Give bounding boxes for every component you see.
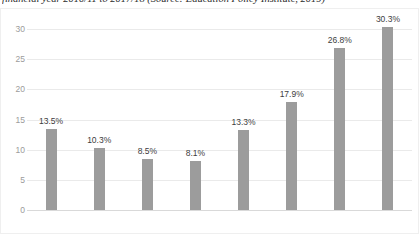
gridline xyxy=(27,89,412,90)
bar-value-label: 10.3% xyxy=(87,135,111,145)
bar[interactable] xyxy=(46,129,57,210)
y-axis-tick-label: 5 xyxy=(3,175,25,185)
y-axis-tick-label: 0 xyxy=(3,205,25,215)
bar-value-label: 13.5% xyxy=(39,116,63,126)
y-axis-tick-label: 10 xyxy=(3,145,25,155)
bar[interactable] xyxy=(334,48,345,210)
gridline xyxy=(27,210,412,211)
bar[interactable] xyxy=(286,102,297,210)
x-axis-tick-labels: 20112012201320142015201620172018 xyxy=(27,29,412,59)
bar[interactable] xyxy=(238,130,249,210)
y-axis-tick-labels: 051015202530 xyxy=(1,29,25,210)
bar-value-label: 13.3% xyxy=(232,117,256,127)
bar[interactable] xyxy=(94,148,105,210)
bar-value-label: 30.3% xyxy=(376,14,400,24)
chart-container: 051015202530 13.5%10.3%8.5%8.1%13.3%17.9… xyxy=(0,8,419,234)
bar-value-label: 17.9% xyxy=(280,89,304,99)
y-axis-tick-label: 15 xyxy=(3,115,25,125)
gridline xyxy=(27,180,412,181)
gridline xyxy=(27,120,412,121)
bar-value-label: 8.1% xyxy=(186,148,205,158)
bar-value-label: 8.5% xyxy=(138,146,157,156)
bar[interactable] xyxy=(142,159,153,210)
y-axis-tick-label: 20 xyxy=(3,84,25,94)
gridline xyxy=(27,59,412,60)
figure-caption: financial year 2010/11 to 2017/18 (Sourc… xyxy=(2,0,419,7)
y-axis-tick-label: 25 xyxy=(3,54,25,64)
y-axis-tick-label: 30 xyxy=(3,24,25,34)
bar[interactable] xyxy=(190,161,201,210)
chart-screenshot: financial year 2010/11 to 2017/18 (Sourc… xyxy=(0,0,419,234)
gridline xyxy=(27,150,412,151)
